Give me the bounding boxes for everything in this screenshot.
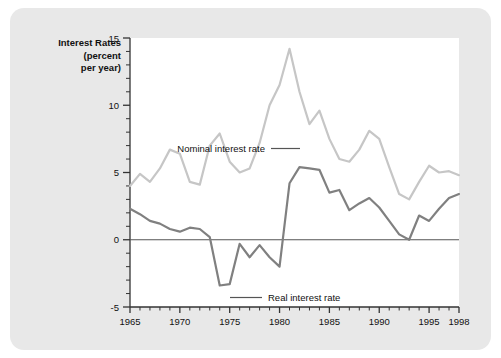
chart-plot-area: -5051015 1965197019751980198519901995199… <box>10 8 491 350</box>
x-tick-label: 1975 <box>219 316 240 327</box>
x-axis-tick-labels: 19651970197519801985199019951998 <box>119 316 469 327</box>
x-tick-label: 1980 <box>269 316 290 327</box>
y-axis-tick-labels: -5051015 <box>108 33 119 313</box>
x-tick-label: 1995 <box>419 316 440 327</box>
figure-card: -5051015 1965197019751980198519901995199… <box>10 8 491 350</box>
interest-rates-line-chart: -5051015 1965197019751980198519901995199… <box>10 8 491 350</box>
x-tick-label: 1965 <box>119 316 140 327</box>
plot-background <box>130 38 459 307</box>
y-axis-title-line: Interest Rates <box>58 37 121 48</box>
x-tick-label: 1985 <box>319 316 340 327</box>
annotation-nominal-interest-rate: Nominal interest rate <box>177 143 265 154</box>
annotation-real-interest-rate: Real interest rate <box>268 292 340 303</box>
y-axis-title-line: (percent <box>84 50 122 61</box>
y-tick-label: 0 <box>114 234 119 245</box>
y-axis-title: Interest Rates(percentper year) <box>58 37 122 73</box>
x-axis-minor-ticks <box>130 307 459 313</box>
x-tick-label: 1990 <box>369 316 390 327</box>
x-tick-label: 1998 <box>448 316 469 327</box>
y-tick-label: 10 <box>108 100 119 111</box>
y-axis-title-line: per year) <box>81 62 121 73</box>
y-tick-label: 5 <box>114 167 119 178</box>
y-tick-label: -5 <box>111 302 119 313</box>
x-tick-label: 1970 <box>169 316 190 327</box>
